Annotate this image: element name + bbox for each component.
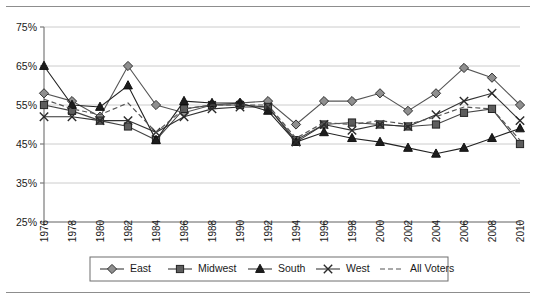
y-tick-label: 65% bbox=[16, 60, 37, 72]
y-axis-group: 75%65%55%45%35%25% bbox=[16, 21, 44, 228]
x-tick-label: 1984 bbox=[151, 219, 162, 242]
series-line bbox=[44, 66, 520, 154]
diamond-marker bbox=[151, 100, 160, 109]
series-south bbox=[40, 61, 525, 157]
x-tick-label: 2010 bbox=[515, 219, 526, 242]
x-tick-label: 1996 bbox=[319, 219, 330, 242]
cross-marker bbox=[460, 97, 468, 105]
diamond-marker bbox=[347, 97, 356, 106]
triangle-marker bbox=[516, 124, 525, 132]
x-tick-label: 1992 bbox=[263, 219, 274, 242]
y-tick-label: 55% bbox=[16, 99, 37, 111]
x-tick-label: 1990 bbox=[235, 219, 246, 242]
triangle-marker bbox=[40, 61, 49, 69]
line-chart-plot: 75%65%55%45%35%25% 197619781980198219841… bbox=[0, 0, 536, 298]
x-tick-label: 2000 bbox=[375, 219, 386, 242]
legend-label: West bbox=[346, 262, 370, 274]
y-tick-label: 35% bbox=[16, 177, 37, 189]
x-tick-label: 1994 bbox=[291, 219, 302, 242]
top-divider-rule bbox=[6, 6, 530, 7]
x-tick-label: 2008 bbox=[487, 219, 498, 242]
x-tick-label: 2006 bbox=[459, 219, 470, 242]
x-tick-label: 1980 bbox=[95, 219, 106, 242]
y-tick-label: 25% bbox=[16, 216, 37, 228]
chart-container: 75%65%55%45%35%25% 197619781980198219841… bbox=[0, 0, 536, 298]
x-tick-label: 1978 bbox=[67, 219, 78, 242]
square-marker bbox=[432, 121, 439, 128]
x-tick-label: 1976 bbox=[39, 219, 50, 242]
x-tick-label: 2002 bbox=[403, 219, 414, 242]
square-marker bbox=[460, 109, 467, 116]
series-line bbox=[44, 93, 520, 142]
cross-marker bbox=[488, 89, 496, 97]
series-east bbox=[39, 61, 524, 129]
legend-label: Midwest bbox=[198, 262, 237, 274]
x-tick-label: 1998 bbox=[347, 219, 358, 242]
chart-legend: EastMidwestSouthWestAll Voters bbox=[90, 257, 454, 281]
x-tick-label: 2004 bbox=[431, 219, 442, 242]
legend-label: All Voters bbox=[410, 262, 454, 274]
y-tick-label: 75% bbox=[16, 21, 37, 33]
bottom-divider-rule bbox=[6, 292, 530, 293]
x-tick-label: 1988 bbox=[207, 219, 218, 242]
x-tick-label: 1986 bbox=[179, 219, 190, 242]
diamond-marker bbox=[123, 61, 132, 70]
square-marker bbox=[516, 140, 523, 147]
diamond-marker bbox=[39, 89, 48, 98]
square-marker bbox=[40, 101, 47, 108]
x-tick-label: 1982 bbox=[123, 219, 134, 242]
triangle-marker bbox=[180, 96, 189, 104]
y-tick-label: 45% bbox=[16, 138, 37, 150]
legend-label: South bbox=[278, 262, 306, 274]
triangle-marker bbox=[124, 81, 133, 89]
x-axis-group: 1976197819801982198419861988199019921994… bbox=[39, 219, 526, 242]
legend-label: East bbox=[130, 262, 151, 274]
data-series-group bbox=[39, 61, 524, 157]
square-marker bbox=[176, 265, 183, 272]
diamond-marker bbox=[375, 89, 384, 98]
triangle-marker bbox=[320, 128, 329, 136]
diamond-marker bbox=[403, 106, 412, 115]
